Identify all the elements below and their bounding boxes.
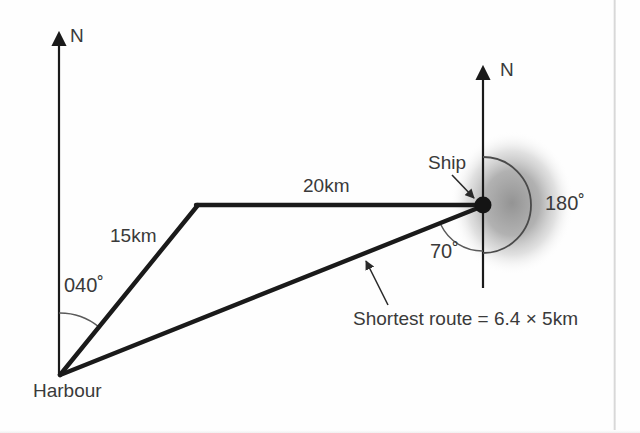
north-label-harbour: N [70, 26, 84, 45]
page-edge-right [613, 0, 616, 433]
harbour-label: Harbour [33, 381, 102, 400]
shortest-route-caption: Shortest route = 6.4 × 5km [353, 309, 578, 328]
bearing-label-040: 040˚ [64, 275, 104, 295]
bearing-label-180: 180˚ [545, 193, 585, 213]
ship-label: Ship [428, 153, 466, 172]
distance-label-20km: 20km [303, 176, 349, 195]
north-label-ship: N [500, 60, 514, 79]
shortest-route-leader-arrow [366, 261, 388, 305]
distance-label-15km: 15km [110, 226, 156, 245]
bearing-label-70: 70˚ [430, 241, 459, 261]
bearing-diagram [0, 0, 640, 433]
ship-marker-dot [475, 197, 492, 214]
figure-page: N N 040˚ 15km 20km Ship 180˚ 70˚ Shortes… [0, 0, 640, 433]
bearing-arc-040 [59, 313, 99, 327]
